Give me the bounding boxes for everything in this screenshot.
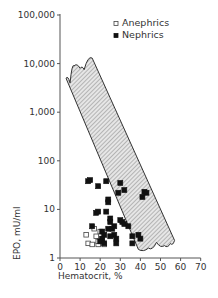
anephric-point — [84, 233, 89, 238]
nephric-point — [108, 234, 113, 239]
nephric-point — [114, 241, 119, 246]
x-tick-label: 40 — [135, 262, 147, 272]
nephric-point — [126, 224, 131, 229]
nephric-point — [90, 224, 95, 229]
y-tick-label: 100 — [38, 156, 55, 166]
y-axis-title: EPO, mU/ml — [12, 206, 22, 260]
legend: AnephricsNephrics — [114, 17, 169, 40]
anephric-point — [94, 234, 99, 239]
nephric-point — [144, 190, 149, 195]
scatter-chart: 1101001,00010,000100,000010203040506070 … — [0, 0, 218, 298]
nephric-point — [88, 178, 93, 183]
x-tick-label: 60 — [175, 262, 187, 272]
y-tick-label: 10 — [44, 204, 56, 214]
legend-filled-square-icon — [114, 34, 118, 38]
nephric-point — [106, 200, 111, 205]
x-tick-label: 70 — [195, 262, 207, 272]
nephric-point — [130, 241, 135, 246]
y-tick-label: 100,000 — [18, 10, 55, 20]
y-tick-label: 1 — [49, 253, 55, 263]
nephric-point — [104, 209, 109, 214]
nephric-point — [114, 236, 119, 241]
nephric-point — [130, 234, 135, 239]
legend-open-square-icon — [114, 22, 118, 26]
nephric-point — [118, 180, 123, 185]
legend-label: Nephrics — [122, 29, 164, 40]
nephric-point — [102, 241, 107, 246]
anephric-point — [90, 242, 95, 247]
nephric-point — [104, 179, 109, 184]
y-tick-label: 1,000 — [29, 107, 55, 117]
nephric-point — [96, 184, 101, 189]
legend-label: Anephrics — [122, 17, 169, 28]
x-axis-title: Hematocrit, % — [58, 271, 123, 281]
y-tick-label: 10,000 — [24, 59, 56, 69]
nephric-point — [112, 224, 117, 229]
x-tick-label: 50 — [155, 262, 167, 272]
nephric-point — [96, 209, 101, 214]
nephric-point — [122, 188, 127, 193]
nephric-point — [116, 190, 121, 195]
nephric-point — [138, 236, 143, 241]
